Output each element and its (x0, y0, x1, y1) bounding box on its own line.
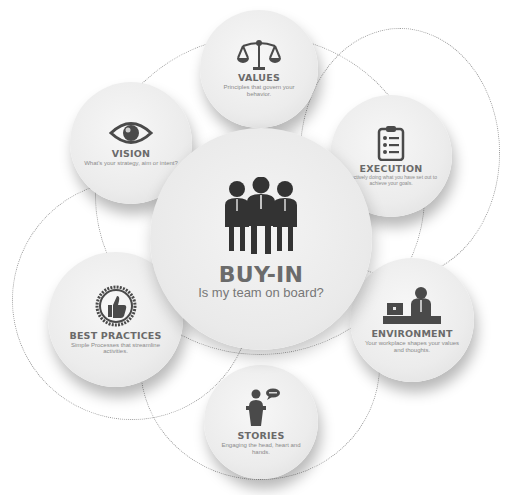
node-environment: ENVIRONMENT Your workplace shapes your v… (350, 258, 474, 382)
clipboard-checklist-icon (377, 125, 405, 161)
thumbs-up-badge-icon (94, 284, 138, 328)
node-title: VISION (112, 149, 151, 159)
node-description: What's your strategy, aim or intent? (83, 160, 178, 167)
node-title: ENVIRONMENT (371, 329, 452, 339)
node-title: BEST PRACTICES (69, 331, 161, 341)
center-node-buy-in: BUY-IN Is my team on board? (150, 128, 372, 350)
node-values: VALUES Principles that govern your behav… (200, 10, 318, 128)
center-subtitle: Is my team on board? (198, 286, 324, 301)
node-stories: STORIES Engaging the head, heart and han… (204, 365, 318, 479)
team-icon (223, 177, 299, 257)
node-description: Simple Processes that streamline activit… (63, 342, 168, 356)
eye-icon (109, 120, 153, 146)
node-title: VALUES (238, 73, 280, 83)
node-description: Engaging the head, heart and hands. (217, 442, 306, 456)
node-title: EXECUTION (360, 164, 423, 174)
node-description: Principles that govern your behavior. (213, 84, 305, 98)
node-title: STORIES (238, 431, 285, 441)
node-description: Your workplace shapes your values and th… (364, 340, 461, 354)
office-desk-icon (381, 286, 443, 326)
speaker-podium-icon (241, 388, 281, 428)
scales-icon (237, 40, 281, 70)
center-title: BUY-IN (219, 263, 303, 286)
